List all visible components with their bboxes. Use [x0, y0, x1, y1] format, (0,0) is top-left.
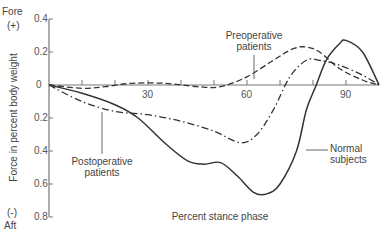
y-tick-label: 0.6: [34, 178, 48, 189]
aft-label: Aft: [4, 220, 16, 231]
axes: [49, 19, 379, 217]
fore-label: Fore: [2, 6, 23, 17]
y-tick-label: 0.8: [34, 211, 48, 222]
normal-annotation-line1: Normal: [330, 143, 367, 154]
postoperative-annotation: Postoperative patients: [63, 156, 141, 178]
y-tick-label: 0.2: [34, 112, 48, 123]
x-tick-label: 90: [340, 89, 351, 100]
chart-plot-area: [0, 0, 385, 234]
postoperative-annotation-line2: patients: [63, 167, 141, 178]
y-tick-label: 0: [36, 79, 42, 90]
x-axis-title: Percent stance phase: [140, 211, 300, 222]
normal-annotation-line2: subjects: [330, 154, 367, 165]
aft-minus-label: (-): [7, 207, 17, 218]
x-tick-label: 60: [241, 89, 252, 100]
annotation-leaders: [102, 55, 328, 154]
y-tick-label: 0.4: [34, 145, 48, 156]
preoperative-annotation-line1: Preoperative: [217, 30, 291, 41]
preoperative-annotation-line2: patients: [217, 41, 291, 52]
x-tick-label: 30: [142, 89, 153, 100]
y-axis-title: Force in percent body weight: [8, 48, 19, 188]
normal-annotation: Normal subjects: [330, 143, 367, 165]
y-tick-label: 0.4: [34, 13, 48, 24]
postoperative-annotation-line1: Postoperative: [63, 156, 141, 167]
y-tick-label: 0.2: [34, 46, 48, 57]
postoperative-patients-line: [49, 59, 379, 143]
preoperative-annotation: Preoperative patients: [217, 30, 291, 52]
fore-plus-label: (+): [7, 20, 20, 31]
